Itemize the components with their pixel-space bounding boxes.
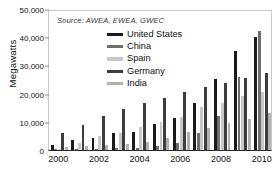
bar (61, 133, 64, 150)
bar (207, 128, 210, 150)
bar (221, 103, 224, 150)
chart-title-cutoff (46, 0, 246, 5)
bar (143, 103, 146, 150)
bar (241, 96, 244, 150)
bar-group (153, 11, 170, 150)
x-tick-label: 2002 (89, 154, 109, 164)
bar-group (173, 11, 190, 150)
bar (176, 143, 179, 150)
bar (200, 107, 203, 150)
plot-inner: Source: AWEA, EWEA, GWEC United StatesCh… (49, 11, 271, 150)
y-tick-mark (45, 66, 49, 67)
bar-group (254, 11, 271, 150)
bar (258, 31, 261, 150)
bar (204, 87, 207, 150)
bar-group (214, 11, 231, 150)
bar (58, 149, 61, 150)
bar (183, 92, 186, 150)
bar (224, 83, 227, 150)
bar (136, 148, 139, 150)
bar-group (193, 11, 210, 150)
bar (180, 117, 183, 150)
bar (82, 125, 85, 150)
bar (146, 142, 149, 150)
bar (217, 116, 220, 150)
plot-area: Source: AWEA, EWEA, GWEC United StatesCh… (48, 10, 272, 151)
bar (163, 98, 166, 150)
bar (268, 113, 271, 150)
bar (139, 127, 142, 150)
x-tick-label: 2010 (252, 154, 272, 164)
bar (85, 146, 88, 150)
bar-group (92, 11, 109, 150)
y-tick-mark (45, 94, 49, 95)
bars-layer (49, 11, 271, 150)
bar-group (71, 11, 88, 150)
bar (95, 149, 98, 150)
bar (105, 145, 108, 150)
x-tick-label: 2000 (48, 154, 68, 164)
bar (102, 116, 105, 150)
bar-group (51, 11, 68, 150)
bar (122, 109, 125, 150)
x-tick-label: 2006 (170, 154, 190, 164)
bar (228, 123, 231, 150)
bar-group (112, 11, 129, 150)
bar (119, 133, 122, 150)
chart-screenshot: Megawatts 010,00020,00030,00040,00050,00… (0, 0, 277, 181)
bar (156, 146, 159, 150)
y-tick-label: 20,000 (2, 90, 44, 99)
y-tick-mark (45, 38, 49, 39)
bar (54, 149, 57, 150)
y-tick-label: 0 (2, 147, 44, 156)
bar (115, 148, 118, 150)
bar (65, 147, 68, 150)
bar (248, 119, 251, 150)
bar (166, 138, 169, 150)
bar (126, 144, 129, 150)
bar-group (132, 11, 149, 150)
x-tick-label: 2004 (130, 154, 150, 164)
y-tick-mark (45, 122, 49, 123)
bar (78, 143, 81, 150)
bar (265, 73, 268, 150)
bar (98, 136, 101, 150)
bar (75, 149, 78, 150)
y-axis-ticks: 010,00020,00030,00040,00050,000 (0, 0, 44, 181)
bar (261, 92, 264, 150)
bar (238, 77, 241, 150)
bar (187, 132, 190, 150)
bar (160, 122, 163, 150)
y-tick-label: 10,000 (2, 118, 44, 127)
x-tick-label: 2008 (211, 154, 231, 164)
y-tick-mark (45, 10, 49, 11)
x-axis-ticks: 200020022004200620082010 (48, 152, 272, 168)
y-tick-label: 40,000 (2, 34, 44, 43)
y-tick-label: 50,000 (2, 6, 44, 15)
bar (197, 133, 200, 150)
bar-group (234, 11, 251, 150)
y-tick-label: 30,000 (2, 62, 44, 71)
bar (244, 78, 247, 150)
